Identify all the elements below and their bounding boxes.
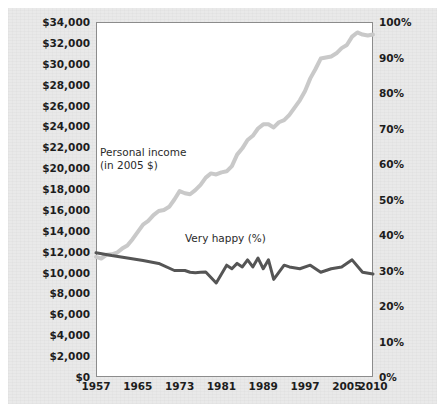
right-axis-tick: 80% xyxy=(379,88,404,99)
right-axis-tick: 90% xyxy=(379,53,404,64)
x-axis-tick: 2010 xyxy=(348,381,398,392)
right-axis-tick: 10% xyxy=(379,337,404,348)
right-axis-tick: 70% xyxy=(379,124,404,135)
left-axis-tick: $16,000 xyxy=(12,205,90,216)
annotation-income-line2: (in 2005 $) xyxy=(100,159,158,171)
left-axis-tick: $34,000 xyxy=(12,17,90,28)
left-axis-tick: $14,000 xyxy=(12,226,90,237)
right-axis-tick: 50% xyxy=(379,195,404,206)
right-axis-tick: 20% xyxy=(379,301,404,312)
left-axis-tick: $20,000 xyxy=(12,163,90,174)
left-axis-tick: $18,000 xyxy=(12,184,90,195)
left-axis-tick: $24,000 xyxy=(12,121,90,132)
left-axis-tick: $22,000 xyxy=(12,142,90,153)
chart-figure: $0$2,000$4,000$6,000$8,000$10,000$12,000… xyxy=(0,0,445,417)
annotation-income-line1: Personal income xyxy=(100,146,186,158)
left-axis-tick: $6,000 xyxy=(12,309,90,320)
left-axis-tick: $8,000 xyxy=(12,288,90,299)
left-axis-tick: $10,000 xyxy=(12,268,90,279)
left-axis-tick: $32,000 xyxy=(12,38,90,49)
right-axis-tick: 30% xyxy=(379,266,404,277)
right-axis-tick: 100% xyxy=(379,17,411,28)
left-axis-tick: $4,000 xyxy=(12,330,90,341)
series-line xyxy=(96,253,373,283)
left-axis-tick: $30,000 xyxy=(12,59,90,70)
annotation-personal-income: Personal income(in 2005 $) xyxy=(100,146,186,171)
right-axis-tick: 60% xyxy=(379,159,404,170)
left-axis-tick: $12,000 xyxy=(12,247,90,258)
left-axis-tick: $26,000 xyxy=(12,101,90,112)
left-axis-tick: $28,000 xyxy=(12,80,90,91)
left-axis-tick: $2,000 xyxy=(12,351,90,362)
annotation-very-happy: Very happy (%) xyxy=(185,232,266,245)
right-axis-tick: 40% xyxy=(379,230,404,241)
